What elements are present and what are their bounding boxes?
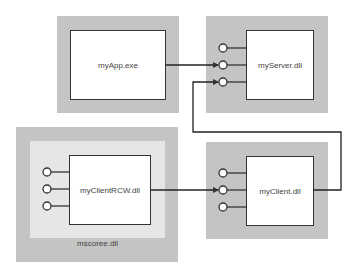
connectors <box>0 0 359 267</box>
interface-lollipop-icon <box>219 44 227 52</box>
interface-lollipop-icon <box>43 185 51 193</box>
interface-lollipop-icon <box>43 202 51 210</box>
interface-lollipop-icon <box>43 168 51 176</box>
interface-lollipop-icon <box>219 203 227 211</box>
interface-lollipop-icon <box>219 186 227 194</box>
interface-lollipop-icon <box>219 169 227 177</box>
myserver-interfaces <box>219 44 246 86</box>
myclientrcw-interfaces <box>43 168 69 210</box>
myclient-interfaces <box>219 169 246 211</box>
edge-myclient-to-myserver <box>193 82 341 190</box>
interface-lollipop-icon <box>219 78 227 86</box>
interface-lollipop-icon <box>219 61 227 69</box>
